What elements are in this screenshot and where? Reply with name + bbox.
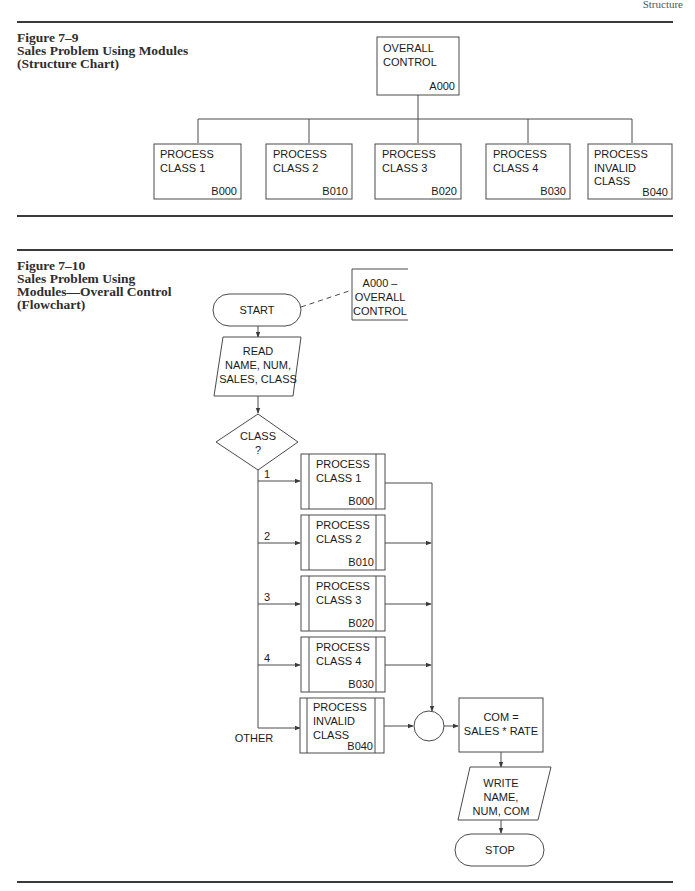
svg-text:PROCESS: PROCESS [273, 148, 327, 160]
svg-text:?: ? [255, 444, 261, 456]
svg-text:A000: A000 [429, 80, 455, 92]
svg-text:SALES, CLASS: SALES, CLASS [219, 373, 297, 385]
output-write: WRITE NAME, NUM, COM [458, 767, 551, 820]
svg-text:CLASS 2: CLASS 2 [316, 533, 361, 545]
svg-text:PROCESS: PROCESS [594, 148, 648, 160]
svg-text:NAME, NUM,: NAME, NUM, [225, 359, 291, 371]
annotation-a000: A000 – OVERALL CONTROL [352, 269, 408, 320]
svg-text:INVALID: INVALID [594, 162, 636, 174]
module-process-class-4: PROCESS CLASS 4 B030 [486, 144, 570, 199]
svg-text:PROCESS: PROCESS [313, 701, 367, 713]
branch-label-3: 3 [264, 591, 270, 603]
svg-text:B040: B040 [347, 740, 373, 752]
svg-text:PROCESS: PROCESS [316, 641, 370, 653]
svg-text:A000 –: A000 – [363, 277, 399, 289]
terminal-stop: STOP [455, 834, 544, 866]
svg-text:CLASS 3: CLASS 3 [316, 594, 361, 606]
module-process-class-1: PROCESS CLASS 1 B000 [154, 144, 241, 199]
svg-text:CLASS 4: CLASS 4 [493, 162, 538, 174]
structure-chart: OVERALL CONTROL A000 PROCESS CLASS 1 B00… [154, 37, 672, 199]
svg-text:CLASS 1: CLASS 1 [160, 162, 205, 174]
svg-text:PROCESS: PROCESS [316, 580, 370, 592]
svg-text:INVALID: INVALID [313, 715, 355, 727]
branch-label-4: 4 [264, 652, 270, 664]
module-process-invalid-class: PROCESS INVALID CLASS B040 [588, 144, 672, 199]
svg-text:B020: B020 [348, 617, 374, 629]
module-process-class-3: PROCESS CLASS 3 B020 [375, 144, 461, 199]
svg-text:B030: B030 [348, 678, 374, 690]
svg-text:CLASS: CLASS [240, 430, 276, 442]
svg-text:NAME,: NAME, [484, 791, 519, 803]
svg-text:CONTROL: CONTROL [353, 305, 407, 317]
svg-text:NUM, COM: NUM, COM [473, 805, 530, 817]
process-compute-commission: COM = SALES * RATE [459, 698, 543, 752]
branch-label-other: OTHER [235, 732, 274, 744]
svg-text:B040: B040 [642, 186, 668, 198]
svg-text:PROCESS: PROCESS [316, 519, 370, 531]
svg-text:CLASS 1: CLASS 1 [316, 472, 361, 484]
svg-text:PROCESS: PROCESS [493, 148, 547, 160]
module-process-class-2: PROCESS CLASS 2 B010 [266, 144, 352, 199]
svg-text:PROCESS: PROCESS [316, 458, 370, 470]
svg-text:STOP: STOP [485, 844, 515, 856]
branch-label-2: 2 [264, 530, 270, 542]
process-class-2: PROCESS CLASS 2 B010 [301, 515, 385, 570]
svg-text:PROCESS: PROCESS [382, 148, 436, 160]
branch-label-1: 1 [264, 468, 270, 480]
svg-text:SALES * RATE: SALES * RATE [464, 725, 538, 737]
svg-text:READ: READ [243, 345, 274, 357]
svg-text:B030: B030 [540, 185, 566, 197]
svg-text:B010: B010 [348, 556, 374, 568]
svg-text:PROCESS: PROCESS [160, 148, 214, 160]
svg-text:OVERALL: OVERALL [355, 291, 406, 303]
svg-text:CONTROL: CONTROL [383, 56, 437, 68]
svg-text:CLASS: CLASS [313, 729, 349, 741]
svg-text:B000: B000 [211, 185, 237, 197]
svg-text:COM =: COM = [483, 711, 518, 723]
annotation-dashed-link [301, 290, 352, 307]
decision-class: CLASS ? [216, 414, 298, 470]
svg-text:B020: B020 [431, 185, 457, 197]
process-class-4: PROCESS CLASS 4 B030 [301, 637, 385, 692]
svg-text:B000: B000 [348, 495, 374, 507]
diagram-canvas: OVERALL CONTROL A000 PROCESS CLASS 1 B00… [0, 0, 695, 891]
svg-text:CLASS 2: CLASS 2 [273, 162, 318, 174]
svg-text:START: START [239, 304, 274, 316]
svg-text:WRITE: WRITE [483, 777, 518, 789]
svg-text:CLASS 3: CLASS 3 [382, 162, 427, 174]
input-read: READ NAME, NUM, SALES, CLASS [214, 337, 301, 396]
svg-text:CLASS: CLASS [594, 175, 630, 187]
svg-text:OVERALL: OVERALL [383, 42, 434, 54]
connector-circle [414, 711, 444, 741]
process-class-3: PROCESS CLASS 3 B020 [301, 576, 385, 631]
process-invalid-class: PROCESS INVALID CLASS B040 [300, 698, 384, 753]
terminal-start: START [213, 294, 301, 326]
svg-text:CLASS 4: CLASS 4 [316, 655, 361, 667]
flowchart: A000 – OVERALL CONTROL START READ NAME, … [213, 269, 551, 866]
svg-text:B010: B010 [322, 185, 348, 197]
process-class-1: PROCESS CLASS 1 B000 [301, 454, 385, 509]
module-overall-control: OVERALL CONTROL A000 [377, 37, 459, 95]
